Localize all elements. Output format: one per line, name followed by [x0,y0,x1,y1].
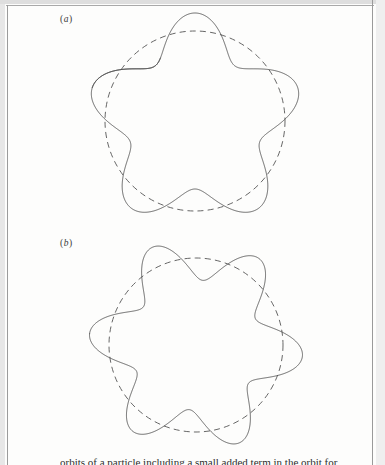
panel-b-plot [0,224,385,465]
figure-page: (a) (b) orbits of a particle including a… [0,0,385,465]
panel-b-orbit-curve [90,246,303,444]
panel-a-plot [0,0,385,240]
figure-caption: orbits of a particle including a small a… [60,456,370,465]
panel-b-reference-circle [109,258,283,432]
panel-a-reference-circle [105,31,285,211]
panel-a-orbit-curve [91,13,298,212]
